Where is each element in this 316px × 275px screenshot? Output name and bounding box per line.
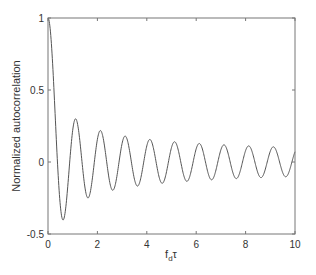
y-tick-label: 0 [38, 157, 44, 168]
x-tick-label: 2 [95, 239, 101, 250]
x-tick-label: 8 [243, 239, 249, 250]
autocorrelation-curve [48, 18, 295, 220]
x-tick-label: 6 [193, 239, 199, 250]
x-tick-label: 10 [289, 239, 301, 250]
x-tick-label: 4 [144, 239, 150, 250]
x-axis-label: fdτ [165, 248, 178, 263]
y-tick-label: -0.5 [27, 229, 45, 240]
x-axis-ticks: 0246810 [45, 18, 301, 250]
data-line [48, 18, 295, 220]
axes-frame [48, 18, 295, 234]
x-tick-label: 0 [45, 239, 51, 250]
y-tick-label: 1 [38, 13, 44, 24]
y-axis-label: Normalized autocorrelation [10, 60, 22, 191]
chart-figure: 0246810 -0.500.51 fdτ Normalized autocor… [0, 0, 316, 275]
y-tick-label: 0.5 [30, 85, 44, 96]
y-axis-ticks: -0.500.51 [27, 13, 295, 240]
